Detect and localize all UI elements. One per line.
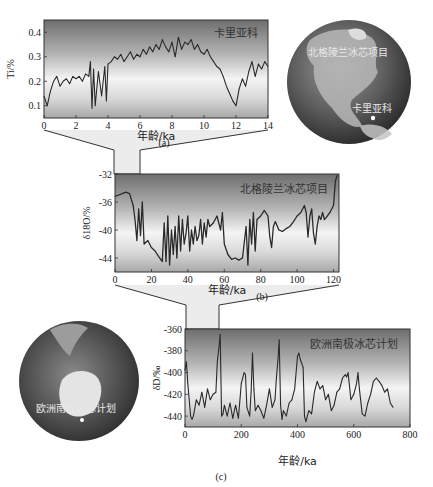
data-point <box>239 88 240 89</box>
data-point <box>184 244 185 245</box>
data-point <box>142 202 143 203</box>
data-point <box>172 42 173 43</box>
data-point <box>268 216 269 217</box>
data-point <box>159 49 160 50</box>
data-point <box>300 212 301 213</box>
data-point <box>245 86 246 87</box>
data-point <box>118 195 119 196</box>
x-tick-label: 200 <box>234 429 249 440</box>
data-point <box>228 254 229 255</box>
figure: 北格陵兰冰芯项目 卡里亚科 欧洲南极冰芯计划 024681012140.10.2… <box>0 0 433 487</box>
data-point <box>289 226 290 227</box>
data-point <box>238 260 239 261</box>
data-point <box>376 378 377 379</box>
data-point <box>189 399 190 400</box>
data-point <box>317 381 318 382</box>
data-point <box>133 205 134 206</box>
data-point <box>106 101 107 102</box>
data-point <box>255 76 256 77</box>
x-tick-label: 120 <box>326 274 341 285</box>
globe-label-ngrip: 北格陵兰冰芯项目 <box>308 46 388 58</box>
data-point <box>122 193 123 194</box>
data-point <box>260 216 261 217</box>
epica-site-marker <box>80 418 84 422</box>
data-point <box>337 392 338 393</box>
globe-antarctica: 欧洲南极冰芯计划 <box>19 321 139 441</box>
cariaco-site-marker <box>371 116 375 120</box>
data-point <box>315 244 316 245</box>
data-point <box>192 419 193 420</box>
data-point <box>204 223 205 224</box>
data-point <box>193 244 194 245</box>
data-point <box>351 399 352 400</box>
data-point <box>221 416 222 417</box>
data-point <box>202 244 203 245</box>
data-point <box>275 399 276 400</box>
x-axis-label: 年龄/ka <box>208 283 247 297</box>
y-axis-label: δ18O/% <box>81 206 92 239</box>
x-tick-label: 12 <box>231 120 241 131</box>
data-point <box>144 244 145 245</box>
data-point <box>152 51 153 52</box>
data-point <box>197 240 198 241</box>
data-point <box>382 385 383 386</box>
data-point <box>320 219 321 220</box>
data-point <box>356 383 357 384</box>
data-point <box>224 244 225 245</box>
data-point <box>251 244 252 245</box>
data-point <box>245 374 246 375</box>
data-point <box>311 414 312 415</box>
data-point <box>286 228 287 229</box>
data-point <box>216 66 217 67</box>
data-point <box>200 51 201 52</box>
data-point <box>359 389 360 390</box>
data-point <box>181 49 182 50</box>
data-point <box>220 334 221 335</box>
data-point <box>289 403 290 404</box>
data-point <box>151 247 152 248</box>
data-point <box>155 251 156 252</box>
data-point <box>213 61 214 62</box>
data-point <box>202 392 203 393</box>
data-point <box>126 192 127 193</box>
data-point <box>249 416 250 417</box>
data-point <box>266 405 267 406</box>
data-point <box>236 105 237 106</box>
y-tick-label: -32 <box>99 169 112 180</box>
data-point <box>319 216 320 217</box>
data-point <box>339 389 340 390</box>
data-point <box>322 212 323 213</box>
data-point <box>246 226 247 227</box>
x-tick-label: 4 <box>106 120 111 131</box>
data-point <box>263 418 264 419</box>
data-point <box>348 372 349 373</box>
data-point <box>171 230 172 231</box>
data-point <box>300 359 301 360</box>
data-point <box>168 51 169 52</box>
data-point <box>303 367 304 368</box>
data-point <box>191 230 192 231</box>
data-point <box>72 76 73 77</box>
data-point <box>217 361 218 362</box>
data-point <box>165 47 166 48</box>
data-point <box>69 83 70 84</box>
data-point <box>313 233 314 234</box>
data-point <box>235 258 236 259</box>
data-point <box>88 76 89 77</box>
data-point <box>232 101 233 102</box>
data-point <box>258 405 259 406</box>
data-point <box>133 59 134 60</box>
plot-annotation: 卡里亚科 <box>214 26 258 40</box>
data-point <box>186 361 187 362</box>
data-point <box>326 217 327 218</box>
data-point <box>129 193 130 194</box>
data-point <box>241 383 242 384</box>
data-point <box>304 416 305 417</box>
data-point <box>373 381 374 382</box>
data-point <box>135 219 136 220</box>
data-point <box>393 407 394 408</box>
data-point <box>146 54 147 55</box>
data-point <box>101 96 102 97</box>
data-point <box>137 240 138 241</box>
data-point <box>209 226 210 227</box>
